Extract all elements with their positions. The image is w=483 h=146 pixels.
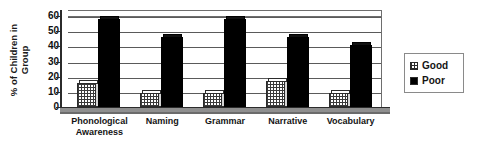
- x-axis-category-labels: PhonologicalAwarenessNamingGrammarNarrat…: [60, 116, 390, 144]
- plot-floor-front: [60, 112, 390, 114]
- bar-side-face: [180, 37, 183, 107]
- x-category-label-line-1: Narrative: [268, 116, 307, 126]
- bar-poor: [287, 37, 306, 107]
- bar-chart-figure: % of Children in Group 0102030405060 Pho…: [0, 0, 483, 146]
- bar-front-face: [287, 37, 306, 107]
- y-axis-title-line-2: Group: [19, 24, 30, 96]
- x-category-label: Narrative: [268, 116, 307, 127]
- x-category-label-line-2: Awareness: [71, 127, 128, 138]
- bar-group: [131, 16, 194, 107]
- legend-swatch-good-icon: [410, 62, 418, 70]
- plot-area: [60, 10, 390, 115]
- x-category-label: Naming: [146, 116, 179, 127]
- bar-side-face: [306, 37, 309, 107]
- bar-poor: [161, 37, 180, 107]
- bar-group: [319, 16, 382, 107]
- legend-swatch-poor-icon: [410, 77, 418, 85]
- bar-side-face: [117, 19, 120, 107]
- plot-canvas: [68, 16, 382, 107]
- bar-poor: [98, 19, 117, 107]
- bar-good: [203, 93, 222, 107]
- x-category-label-line-1: Vocabulary: [327, 116, 375, 126]
- x-category-label-line-1: Grammar: [205, 116, 245, 126]
- y-tick-mark: [56, 46, 61, 47]
- legend-label-poor: Poor: [422, 75, 445, 86]
- bar-front-face: [329, 93, 348, 107]
- bar-front-face: [77, 83, 96, 107]
- bar-good: [140, 93, 159, 107]
- bar-side-face: [369, 45, 372, 107]
- y-tick-mark: [56, 31, 61, 32]
- bar-poor: [224, 19, 243, 107]
- legend-item-good: Good: [410, 58, 463, 73]
- y-axis-title-line-1: % of Children in: [8, 24, 19, 96]
- bar-front-face: [140, 93, 159, 107]
- y-axis-spine: [60, 10, 62, 108]
- y-tick-mark: [56, 16, 61, 17]
- bar-good: [329, 93, 348, 107]
- bar-poor: [350, 45, 369, 107]
- x-category-label: Grammar: [205, 116, 245, 127]
- y-tick-mark: [56, 92, 61, 93]
- bar-group: [194, 16, 257, 107]
- bar-group: [256, 16, 319, 107]
- x-category-label: PhonologicalAwareness: [71, 116, 128, 137]
- bar-front-face: [350, 45, 369, 107]
- bar-front-face: [203, 93, 222, 107]
- x-category-label: Vocabulary: [327, 116, 375, 127]
- bar-front-face: [224, 19, 243, 107]
- bar-good: [266, 81, 285, 107]
- legend-item-poor: Poor: [410, 73, 463, 88]
- bar-front-face: [161, 37, 180, 107]
- x-category-label-line-1: Naming: [146, 116, 179, 126]
- y-tick-mark: [56, 107, 61, 108]
- chart-legend: Good Poor: [404, 53, 464, 93]
- legend-label-good: Good: [422, 60, 448, 71]
- bar-side-face: [243, 19, 246, 107]
- bar-good: [77, 83, 96, 107]
- bar-front-face: [266, 81, 285, 107]
- y-tick-mark: [56, 77, 61, 78]
- x-category-label-line-1: Phonological: [71, 116, 128, 126]
- bar-front-face: [98, 19, 117, 107]
- y-axis-tick-labels: 0102030405060: [36, 8, 60, 118]
- y-axis-title: % of Children in Group: [2, 4, 36, 116]
- y-tick-mark: [56, 62, 61, 63]
- bar-group: [68, 16, 131, 107]
